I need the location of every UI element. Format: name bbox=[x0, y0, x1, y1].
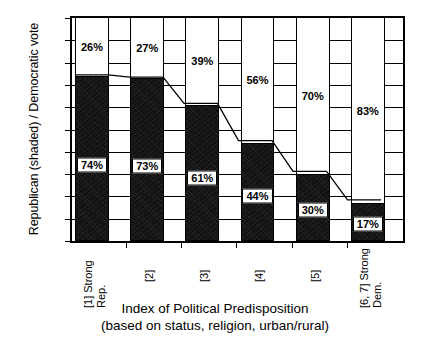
y-axis-tick-mark bbox=[65, 174, 71, 175]
x-axis-tick-mark bbox=[292, 242, 293, 248]
y-axis-tick-mark bbox=[65, 40, 71, 41]
y-axis-tick-mark bbox=[65, 85, 71, 86]
value-label-democratic: 56% bbox=[246, 75, 268, 86]
value-label-republican: 30% bbox=[298, 203, 328, 218]
x-axis-title-line1: Index of Political Predisposition bbox=[50, 300, 380, 317]
y-axis-tick-mark bbox=[65, 241, 71, 242]
stacked-bar[interactable] bbox=[351, 18, 385, 241]
x-axis-tick-mark bbox=[181, 242, 182, 248]
value-label-republican: 61% bbox=[187, 171, 217, 186]
y-axis-title: Republican (shaded) / Democratic vote bbox=[27, 9, 41, 249]
x-axis-category-label-line: [5] bbox=[309, 270, 321, 282]
y-axis-tick-mark bbox=[65, 107, 71, 108]
x-axis-tick-mark bbox=[126, 242, 127, 248]
value-label-republican: 73% bbox=[132, 159, 162, 174]
value-label-republican: 44% bbox=[242, 188, 272, 203]
x-axis-category-label-line: [6, 7] Strong bbox=[358, 248, 370, 308]
x-axis-category-label-line: [4] bbox=[253, 270, 265, 282]
value-label-democratic: 39% bbox=[191, 56, 213, 67]
y-axis-tick-mark bbox=[65, 219, 71, 220]
value-label-republican: 74% bbox=[77, 158, 107, 173]
y-axis-tick-mark bbox=[65, 63, 71, 64]
stacked-bar[interactable] bbox=[241, 18, 275, 241]
y-axis-tick-mark bbox=[65, 196, 71, 197]
x-axis-tick-mark bbox=[347, 242, 348, 248]
stacked-bar[interactable] bbox=[185, 18, 219, 241]
plot-area: 26%74%27%73%39%61%56%44%70%30%83%17% bbox=[70, 16, 405, 243]
x-axis-title: Index of Political Predisposition (based… bbox=[50, 300, 380, 334]
value-label-democratic: 70% bbox=[302, 91, 324, 102]
chart-container: Republican (shaded) / Democratic vote 10… bbox=[0, 0, 425, 346]
value-label-democratic: 26% bbox=[81, 41, 103, 52]
value-label-democratic: 83% bbox=[357, 105, 379, 116]
x-axis-category-label-line: [2] bbox=[143, 270, 155, 282]
x-axis-tick-mark bbox=[236, 242, 237, 248]
x-axis-category-label-line: [3] bbox=[198, 270, 210, 282]
x-axis-title-line2: (based on status, religion, urban/rural) bbox=[50, 317, 380, 334]
y-axis-tick-mark bbox=[65, 130, 71, 131]
y-axis-tick-mark bbox=[65, 18, 71, 19]
y-axis-tick-mark bbox=[65, 152, 71, 153]
trend-line-path bbox=[75, 75, 381, 200]
value-label-democratic: 27% bbox=[136, 43, 158, 54]
value-label-republican: 17% bbox=[353, 216, 383, 231]
